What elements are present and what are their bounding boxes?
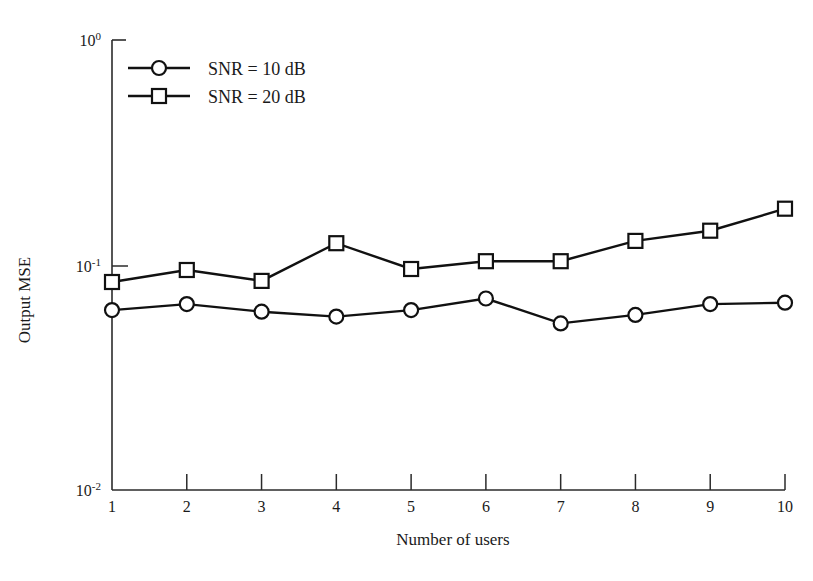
data-point-square [479,254,493,268]
y-tick-exponent-1e-2: -2 [92,480,101,492]
x-tick-label-7: 7 [557,498,565,515]
x-tick-label-8: 8 [631,498,639,515]
x-tick-label-10: 10 [777,498,793,515]
data-point-circle [554,316,568,330]
chart-figure: 100 10-1 10-2 12345678910 Number of user… [0,0,813,581]
x-tick-label-3: 3 [258,498,266,515]
y-tick-mantissa-1e-2: 10 [76,482,92,499]
data-point-square [329,236,343,250]
legend-entry-snr-20: SNR = 20 dB [128,87,306,107]
y-tick-exponent-1e0: 0 [96,30,102,42]
data-point-square [703,224,717,238]
data-point-square [255,274,269,288]
data-point-circle [778,296,792,310]
data-point-circle [255,305,269,319]
y-tick-exponent-1e-1: -1 [92,256,101,268]
data-point-square [778,202,792,216]
x-tick-label-4: 4 [332,498,340,515]
data-point-square [404,262,418,276]
data-point-square [105,275,119,289]
y-axis-title: Output MSE [15,257,34,343]
x-axis-title: Number of users [396,530,509,549]
x-tick-label-6: 6 [482,498,490,515]
data-point-square [180,263,194,277]
data-point-square [628,234,642,248]
legend-circle-icon [152,61,166,75]
legend-label-snr-10: SNR = 10 dB [208,59,306,79]
y-tick-mantissa-1e0: 10 [80,32,96,49]
data-point-circle [703,297,717,311]
x-tick-label-1: 1 [108,498,116,515]
chart-background [0,0,813,581]
y-tick-mantissa-1e-1: 10 [76,258,92,275]
legend-square-icon [152,89,166,103]
data-point-circle [105,303,119,317]
x-tick-label-5: 5 [407,498,415,515]
data-point-circle [180,297,194,311]
x-tick-label-2: 2 [183,498,191,515]
data-point-circle [329,310,343,324]
x-tick-label-9: 9 [706,498,714,515]
data-point-circle [479,292,493,306]
chart-svg: 100 10-1 10-2 12345678910 Number of user… [0,0,813,581]
data-point-circle [628,308,642,322]
data-point-square [554,254,568,268]
data-point-circle [404,303,418,317]
legend-label-snr-20: SNR = 20 dB [208,87,306,107]
